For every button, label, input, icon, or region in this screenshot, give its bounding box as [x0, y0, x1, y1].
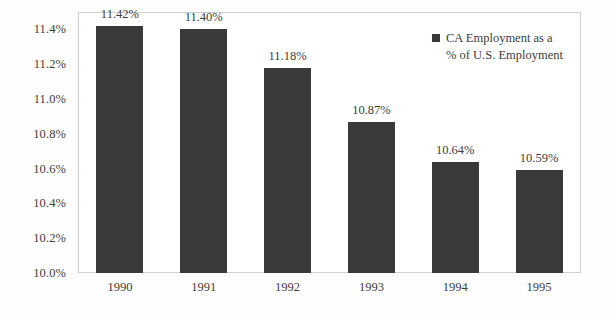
bar	[264, 68, 311, 273]
bar-value-label: 11.42%	[101, 7, 139, 22]
legend-swatch-icon	[432, 34, 440, 42]
bar-value-label: 11.18%	[269, 49, 307, 64]
bar-value-label: 10.59%	[520, 151, 559, 166]
bar-value-label: 11.40%	[185, 10, 223, 25]
bar-value-label: 10.64%	[436, 143, 475, 158]
bar-chart: 10.0%10.2%10.4%10.6%10.8%11.0%11.2%11.4%…	[0, 0, 613, 314]
x-axis-tick-label: 1995	[527, 280, 552, 295]
bar	[516, 170, 563, 273]
x-axis-tick-label: 1991	[191, 280, 216, 295]
bar-value-label: 10.87%	[352, 103, 391, 118]
legend-label: CA Employment as a % of U.S. Employment	[446, 30, 563, 64]
bar	[180, 29, 227, 273]
x-axis: 199019911992199319941995	[78, 277, 581, 307]
chart-legend: CA Employment as a % of U.S. Employment	[432, 30, 563, 64]
x-axis-tick-label: 1994	[443, 280, 468, 295]
bar	[432, 162, 479, 273]
bar	[348, 122, 395, 273]
x-axis-tick-label: 1992	[275, 280, 300, 295]
x-axis-tick-label: 1993	[359, 280, 384, 295]
x-axis-tick-label: 1990	[107, 280, 132, 295]
bar	[96, 26, 143, 273]
